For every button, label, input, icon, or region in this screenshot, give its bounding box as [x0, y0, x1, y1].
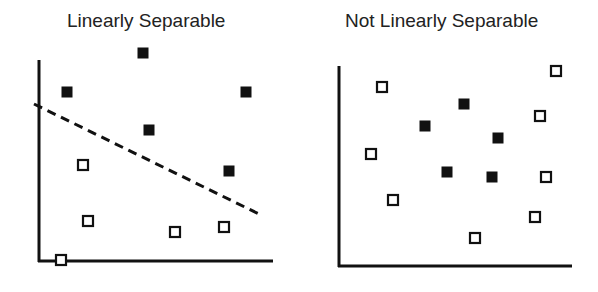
open-square-point	[551, 66, 561, 76]
filled-square-point	[420, 121, 431, 132]
filled-square-point	[138, 48, 149, 59]
open-square-point	[530, 212, 540, 222]
decision-boundary	[34, 104, 259, 214]
open-square-point	[377, 82, 387, 92]
open-square-point	[541, 172, 551, 182]
scatter-plots	[0, 0, 598, 292]
open-square-point	[83, 216, 93, 226]
filled-square-point	[241, 87, 252, 98]
open-square-point	[219, 222, 229, 232]
open-square-point	[56, 255, 66, 265]
filled-square-point	[487, 172, 498, 183]
open-square-point	[388, 195, 398, 205]
filled-square-point	[62, 87, 73, 98]
filled-square-point	[442, 167, 453, 178]
open-square-point	[470, 233, 480, 243]
open-square-point	[170, 227, 180, 237]
open-square-point	[78, 160, 88, 170]
filled-square-point	[459, 99, 470, 110]
open-square-point	[535, 111, 545, 121]
filled-square-point	[144, 125, 155, 136]
filled-square-point	[493, 133, 504, 144]
open-square-point	[366, 149, 376, 159]
filled-square-point	[224, 166, 235, 177]
